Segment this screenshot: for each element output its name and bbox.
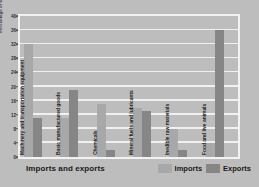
legend-item: Imports xyxy=(158,164,203,173)
bar-exports xyxy=(106,150,115,157)
bar-exports xyxy=(215,30,224,157)
bar-imports xyxy=(133,108,142,157)
bar-imports xyxy=(169,129,178,157)
legend-label: Exports xyxy=(223,164,251,173)
bar-group: Chemicals xyxy=(97,16,115,157)
category-label: Chemicals xyxy=(92,130,98,155)
plot-area: Machinery and transportation equipmentBa… xyxy=(20,16,238,157)
legend-label: Imports xyxy=(175,164,203,173)
bar-imports xyxy=(24,44,33,157)
bar-imports xyxy=(97,104,106,157)
category-label: Basic manufactured goods xyxy=(55,92,61,155)
bar-exports xyxy=(178,150,187,157)
bar-group: Machinery and transportation equipment xyxy=(24,16,42,157)
legend-swatch xyxy=(158,164,172,173)
legend-item: Exports xyxy=(206,164,251,173)
category-label: Machinery and transportation equipment xyxy=(19,60,25,155)
bar-group: Mineral fuels and lubricants xyxy=(133,16,151,157)
chart-figure: Percentage of total 0481216202428323640 … xyxy=(0,0,259,187)
category-label: Food and live animals xyxy=(201,104,207,155)
category-label: Mineral fuels and lubricants xyxy=(128,90,134,155)
bar-exports xyxy=(142,111,151,157)
y-axis-ticks: 0481216202428323640 xyxy=(6,14,18,159)
bar-imports xyxy=(60,118,69,157)
bar-imports xyxy=(206,143,215,157)
chart-legend: ImportsExports xyxy=(158,164,251,173)
category-label: Inedible raw materials xyxy=(164,104,170,155)
bar-exports xyxy=(69,90,78,157)
bar-group: Basic manufactured goods xyxy=(60,16,78,157)
bar-exports xyxy=(33,118,42,157)
chart-title: Imports and exports xyxy=(26,164,105,173)
chart-footer: Imports and exports ImportsExports xyxy=(0,161,259,179)
bar-group: Food and live animals xyxy=(206,16,224,157)
y-axis-title: Percentage of total xyxy=(0,0,3,48)
bar-group: Inedible raw materials xyxy=(169,16,187,157)
legend-swatch xyxy=(206,164,220,173)
